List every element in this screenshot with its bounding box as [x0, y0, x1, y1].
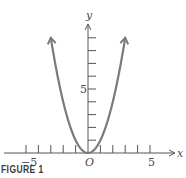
- y-tick-label-5: 5: [80, 83, 87, 96]
- x-tick-label-5: 5: [148, 156, 155, 169]
- y-axis-ticks: [88, 38, 96, 140]
- figure-canvas: y x O −5 5 5: [0, 0, 186, 178]
- origin-label: O: [85, 156, 94, 169]
- x-axis-label: x: [177, 147, 184, 160]
- figure-caption: FIGURE 1: [1, 164, 44, 175]
- y-axis-label: y: [85, 9, 93, 22]
